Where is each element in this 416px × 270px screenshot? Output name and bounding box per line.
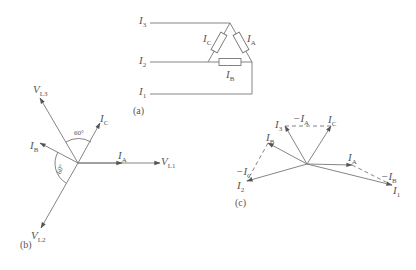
label-c-i3: I3 <box>275 119 282 133</box>
angle-arc-top <box>66 138 91 142</box>
label-c-ia: IA <box>348 152 357 166</box>
label-b-angle-top: 60° <box>74 130 84 137</box>
caption-b: (b) <box>20 240 32 250</box>
label-b-vl3: VL3 <box>33 84 48 98</box>
label-a-i1: I1 <box>139 86 146 100</box>
phasor-i1 <box>307 164 392 185</box>
label-a-i2: I2 <box>139 55 146 69</box>
resistor-b <box>219 59 241 66</box>
label-a-i3: I3 <box>139 15 146 29</box>
label-b-ic: IC <box>100 113 108 127</box>
resistor-c <box>211 32 227 53</box>
label-c-i2: I2 <box>237 180 244 194</box>
caption-c: (c) <box>235 198 246 208</box>
circuit-a <box>150 23 252 94</box>
label-b-ia: IA <box>118 150 127 164</box>
caption-a: (a) <box>133 106 144 116</box>
label-b-ib: IB <box>30 140 38 154</box>
label-b-vl1: VL1 <box>161 156 176 170</box>
label-a-ia: IA <box>247 33 256 47</box>
phasor-ia-c <box>307 164 352 165</box>
label-a-ib: IB <box>226 69 234 83</box>
label-c-i1: I1 <box>393 185 400 199</box>
label-c-ic: IC <box>328 114 336 128</box>
label-a-ic: IC <box>203 33 211 47</box>
phasor-ic-c <box>307 126 331 164</box>
phasor-i2 <box>247 164 307 181</box>
label-c-neg-ia: −IA <box>293 113 309 127</box>
label-b-vl2: VL2 <box>31 230 46 244</box>
label-c-ib: IB <box>266 132 274 146</box>
